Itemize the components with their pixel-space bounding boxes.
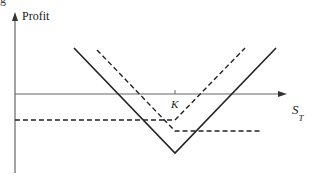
chart-canvas xyxy=(0,0,317,178)
series-long-call xyxy=(15,48,245,120)
strike-label: K xyxy=(171,98,178,110)
x-axis-arrow-icon xyxy=(278,91,287,97)
straddle-profit-chart: g Profit K ST xyxy=(0,0,317,178)
axes xyxy=(12,12,287,173)
x-axis-label-sub: T xyxy=(299,113,304,123)
x-axis-label: ST xyxy=(292,102,304,120)
caption-fragment: g xyxy=(0,0,6,7)
x-axis-label-main: S xyxy=(292,102,299,117)
series-long-put xyxy=(97,50,262,131)
y-axis-arrow-icon xyxy=(12,12,18,21)
y-axis-label: Profit xyxy=(22,9,49,24)
